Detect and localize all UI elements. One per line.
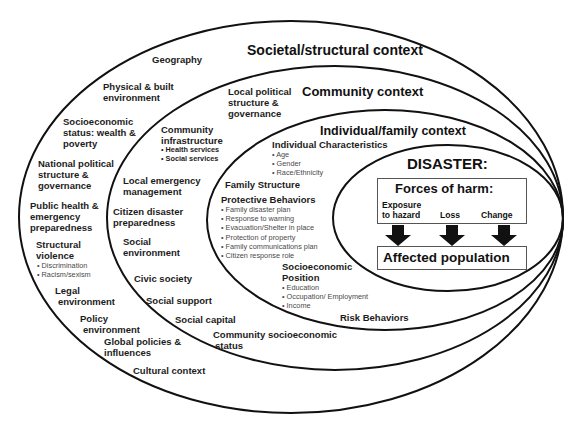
bullet-family-communications-plan: • Family communications plan [221, 242, 318, 251]
factor-geography: Geography [152, 54, 202, 65]
bullet-family-disaster-plan: • Family disaster plan [221, 205, 318, 214]
structural-violence-bullets: • Discrimination • Racism/sexism [37, 261, 91, 279]
individual-context-title: Individual/family context [320, 124, 466, 138]
factor-local-emergency: Local emergency management [123, 175, 201, 197]
force-exposure: Exposure to hazard [382, 200, 421, 220]
bullet-discrimination: • Discrimination [37, 261, 91, 270]
characteristics-bullets: • Age • Gender • Race/Ethnicity [272, 150, 323, 178]
factor-local-political: Local political structure & governance [228, 86, 291, 119]
factor-legal-environment: Legal environment [55, 285, 115, 307]
factor-physical-environment: Physical & built environment [103, 81, 174, 103]
factor-policy-environment: Policy environment [80, 313, 140, 335]
arrow-icon [385, 225, 411, 246]
factor-structural-violence: Structural violence [36, 239, 81, 261]
bullet-race-ethnicity: • Race/Ethnicity [272, 168, 323, 177]
bullet-social-services: • Social services [161, 154, 219, 163]
factor-national-political: National political structure & governanc… [38, 158, 114, 191]
bullet-protection-of-property: • Protection of property [221, 233, 318, 242]
protective-behaviors-bullets: • Family disaster plan • Response to war… [221, 205, 318, 260]
disaster-title: DISASTER: [407, 155, 488, 172]
bullet-evacuation: • Evacuation/Shelter in place [221, 223, 318, 232]
factor-socioeconomic-position: Socioeconomic Position [282, 261, 352, 283]
affected-population-label: Affected population [383, 250, 510, 265]
bullet-education: • Education [282, 283, 368, 292]
arrow-icon [491, 225, 517, 246]
socioeconomic-position-bullets: • Education • Occupation/ Employment • I… [282, 283, 368, 311]
bullet-age: • Age [272, 150, 323, 159]
factor-community-infrastructure: Community infrastructure [161, 124, 223, 146]
infrastructure-bullets: • Health services • Social services [161, 145, 219, 163]
factor-public-health: Public health & emergency preparedness [30, 200, 99, 233]
factor-social-capital: Social capital [175, 314, 236, 325]
bullet-health-services: • Health services [161, 145, 219, 154]
factor-risk-behaviors: Risk Behaviors [340, 312, 409, 323]
bullet-racism-sexism: • Racism/sexism [37, 270, 91, 279]
bullet-response-to-warning: • Response to warning [221, 214, 318, 223]
factor-socioeconomic-status: Socioeconomic status: wealth & poverty [63, 116, 136, 149]
factor-protective-behaviors: Protective Behaviors [221, 194, 316, 205]
factor-social-support: Social support [146, 295, 212, 306]
factor-citizen-preparedness: Citizen disaster preparedness [113, 206, 183, 228]
factor-civic-society: Civic society [134, 273, 192, 284]
factor-global-policies: Global policies & influences [104, 336, 181, 358]
force-change: Change [481, 210, 513, 220]
societal-context-title: Societal/structural context [247, 42, 423, 58]
arrow-icon [439, 225, 465, 246]
factor-cultural-context: Cultural context [133, 365, 205, 376]
factor-social-environment: Social environment [123, 236, 180, 258]
bullet-citizen-response-role: • Citizen response role [221, 251, 318, 260]
factor-community-ses: Community socioeconomic status [213, 329, 337, 351]
factor-family-structure: Family Structure [225, 179, 300, 190]
force-loss: Loss [440, 210, 460, 220]
factor-individual-characteristics: Individual Characteristics [272, 139, 388, 150]
forces-of-harm-title: Forces of harm: [395, 181, 493, 196]
community-context-title: Community context [302, 84, 423, 99]
bullet-occupation: • Occupation/ Employment [282, 292, 368, 301]
bullet-gender: • Gender [272, 159, 323, 168]
bullet-income: • Income [282, 301, 368, 310]
